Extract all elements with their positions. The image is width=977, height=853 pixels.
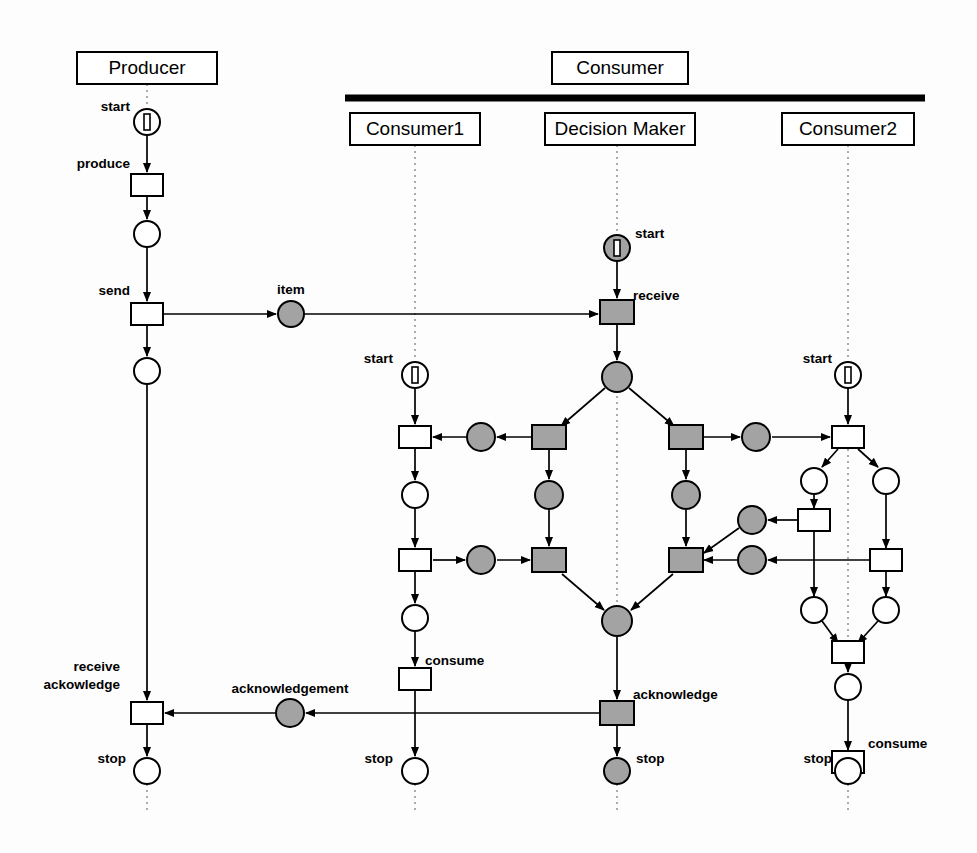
label-ack-place: acknowledgement [231,681,349,696]
label-c1-consume: consume [425,653,485,668]
consumer-thick-bar-group [345,95,925,102]
place-p-c1-c[interactable] [467,546,495,574]
label-dm-acknowledge: acknowledge [633,687,718,702]
label-prod-stop: stop [98,751,127,766]
label-dm-receive: receive [633,288,680,303]
place-circle-p-c2-a [742,423,770,451]
transition-t-c1-consume[interactable] [399,668,431,690]
token-p-dm-start [614,240,620,256]
place-circle-p-c1-b [402,482,428,508]
transition-t-c2-join[interactable] [832,641,864,663]
transition-t-c2-left[interactable] [798,509,830,531]
place-p-dm-r-mid[interactable] [672,481,700,509]
place-p-dm-start[interactable] [604,235,630,261]
transition-t-send[interactable] [131,303,163,325]
a-tc21-pc2r1 [858,449,878,467]
place-p-c2-r1[interactable] [873,468,899,494]
petri-net-svg: ProducerConsumerConsumer1Decision MakerC… [0,0,977,853]
place-p-ack[interactable] [276,699,304,727]
lane-label-decision-maker: Decision Maker [555,118,687,139]
place-circle-p-dm-l-mid [535,481,563,509]
place-p-item[interactable] [278,301,304,327]
place-circle-p-dm-fork [602,362,632,392]
lane-consumer2[interactable]: Consumer2 [782,113,914,145]
lane-producer[interactable]: Producer [77,52,217,84]
transition-t-dm-l-top[interactable] [532,425,566,449]
label-dm-stop: stop [636,751,665,766]
a-pc2l2-tc2join [822,621,838,643]
transition-t-c2-right[interactable] [870,549,902,571]
place-circle-p-c2-r1 [873,468,899,494]
label-producer-produce: produce [77,156,131,171]
transition-t-dm-l-bot[interactable] [532,548,566,572]
label-producer-start: start [101,99,131,114]
transition-t-produce[interactable] [131,174,163,196]
token-p-c1-start [412,367,418,383]
label-prod-receive-ack-1: receive [73,659,120,674]
token-p-prod-start [144,114,150,130]
label-c1-start: start [364,351,394,366]
place-p-c2-stop[interactable] [835,758,861,784]
place-circle-p-item [278,301,304,327]
place-circle-p-c2-b [738,506,766,534]
place-p-c2-a[interactable] [742,423,770,451]
transition-t-dm-r-bot[interactable] [669,548,703,572]
place-p-c1-b[interactable] [402,482,428,508]
place-circle-p-c1-stop [402,758,428,784]
transition-t-dm-r-top[interactable] [669,425,703,449]
place-circle-p-dm-stop [604,758,630,784]
transition-t-dm-ack[interactable] [600,701,634,725]
place-p-c1-d[interactable] [402,605,428,631]
place-p-c2-c[interactable] [738,546,766,574]
transition-t-receive[interactable] [600,300,634,324]
a-pc2r2-tc2join [858,621,878,643]
transition-t-c2-1[interactable] [832,426,864,448]
lane-label-consumer1: Consumer1 [366,118,464,139]
place-p-dm-join[interactable] [602,606,632,636]
transition-t-c1-2[interactable] [399,549,431,571]
a-fork-dmrtop [629,388,674,426]
place-p-c2-l2[interactable] [801,597,827,623]
transition-t-prod-recack[interactable] [131,702,163,724]
a-pc2b-dmrbot [704,528,739,553]
lane-label-producer: Producer [108,57,186,78]
label-c2-consume: consume [868,736,928,751]
lane-label-consumer: Consumer [576,57,664,78]
place-p-prod-1[interactable] [134,221,160,247]
lifelines-group [147,84,848,812]
place-p-dm-l-mid[interactable] [535,481,563,509]
place-p-c1-stop[interactable] [402,758,428,784]
place-p-c2-l1[interactable] [801,468,827,494]
lane-consumer[interactable]: Consumer [552,52,688,84]
place-p-c1-a[interactable] [467,423,495,451]
label-prod-receive-ack-2: ackowledge [43,677,120,692]
place-circle-p-c1-a [467,423,495,451]
place-circle-p-c2-l1 [801,468,827,494]
place-p-c1-start[interactable] [402,362,428,388]
lane-decision-maker[interactable]: Decision Maker [545,113,695,145]
place-circle-p-c2-l2 [801,597,827,623]
place-p-c2-b[interactable] [738,506,766,534]
place-circle-p-c2-c [738,546,766,574]
a-fork-dmltop [561,388,605,426]
place-p-dm-stop[interactable] [604,758,630,784]
arcs-group [147,135,886,774]
place-circle-p-dm-join [602,606,632,636]
label-c1-stop: stop [365,751,394,766]
label-c2-stop: stop [804,751,833,766]
place-circle-p-c1-d [402,605,428,631]
a-dmlbot-join [562,574,604,610]
place-p-dm-fork[interactable] [602,362,632,392]
token-p-c2-start [845,367,851,383]
place-p-prod-2[interactable] [134,358,160,384]
place-circle-p-c2-r2 [873,597,899,623]
place-p-c2-join[interactable] [835,674,861,700]
place-circle-p-ack [276,699,304,727]
place-p-prod-stop[interactable] [134,758,160,784]
place-p-c2-start[interactable] [835,362,861,388]
lane-consumer1[interactable]: Consumer1 [350,113,480,145]
transition-t-c1-1[interactable] [399,426,431,448]
place-p-c2-r2[interactable] [873,597,899,623]
place-circle-p-c2-join [835,674,861,700]
place-p-prod-start[interactable] [134,109,160,135]
